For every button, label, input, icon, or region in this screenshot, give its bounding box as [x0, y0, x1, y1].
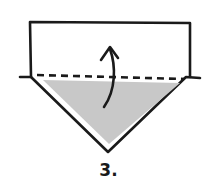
- fold-line-dashed: [37, 75, 184, 79]
- step-number-label: 3.: [0, 160, 217, 180]
- origami-diagram: [0, 0, 217, 184]
